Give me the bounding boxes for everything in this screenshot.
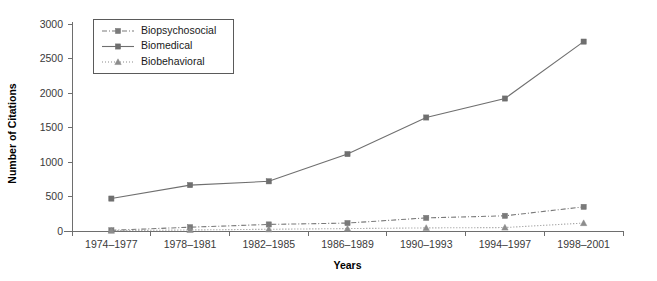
citations-line-chart: 0500100015002000250030001974–19771978–19… <box>0 0 657 281</box>
x-tick-label: 1990–1993 <box>400 238 453 250</box>
data-point <box>187 183 192 188</box>
x-tick-label: 1998–2001 <box>557 238 610 250</box>
y-tick-label: 500 <box>45 190 63 202</box>
y-axis-title: Number of Citations <box>6 83 18 183</box>
data-point <box>424 215 429 220</box>
x-tick-label: 1986–1989 <box>321 238 374 250</box>
x-axis-title: Years <box>333 259 361 271</box>
data-point <box>502 96 507 101</box>
data-point <box>580 220 586 226</box>
y-tick-label: 3000 <box>40 18 64 30</box>
data-point <box>344 225 350 231</box>
legend-label: Biomedical <box>141 39 192 51</box>
legend-label: Biopsychosocial <box>141 24 216 36</box>
chart-canvas: 0500100015002000250030001974–19771978–19… <box>0 0 657 281</box>
data-point <box>424 115 429 120</box>
data-point <box>502 213 507 218</box>
legend-label: Biobehavioral <box>141 55 205 67</box>
y-tick-label: 1000 <box>40 156 64 168</box>
data-point <box>581 204 586 209</box>
data-point <box>502 224 508 230</box>
x-tick-label: 1994–1997 <box>479 238 532 250</box>
data-point <box>345 151 350 156</box>
y-tick-label: 2500 <box>40 52 64 64</box>
y-tick-label: 0 <box>57 225 63 237</box>
data-point <box>109 196 114 201</box>
legend-swatch-marker <box>115 44 120 49</box>
legend-swatch-marker <box>115 28 120 33</box>
x-tick-label: 1978–1981 <box>164 238 217 250</box>
legend: BiopsychosocialBiomedicalBiobehavioral <box>93 19 233 73</box>
y-tick-label: 2000 <box>40 87 64 99</box>
data-point <box>581 39 586 44</box>
data-point <box>266 179 271 184</box>
x-tick-label: 1982–1985 <box>243 238 296 250</box>
y-tick-label: 1500 <box>40 121 64 133</box>
x-tick-label: 1974–1977 <box>85 238 138 250</box>
